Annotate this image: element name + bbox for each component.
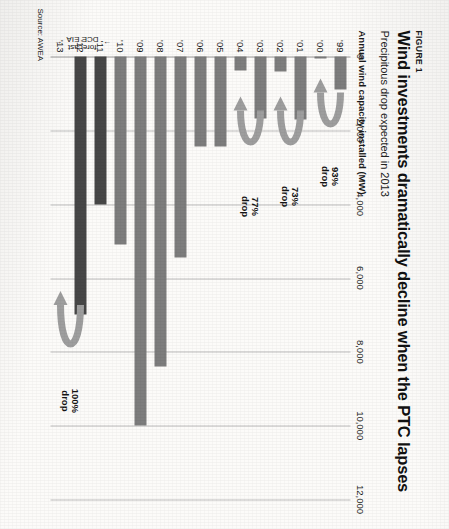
forecast-label-line1: DCE EIA <box>66 33 98 42</box>
figure-kicker: FIGURE 1 <box>413 30 423 507</box>
drop-percent: 100% <box>70 388 80 412</box>
category-tick-label: '07 <box>175 32 186 52</box>
category-tick-label: '99 <box>335 32 346 52</box>
category-tick-label: '01 <box>295 32 306 52</box>
category-tick-label: '03 <box>255 32 266 52</box>
forecast-label-line2: forecast <box>66 42 98 51</box>
category-tick-label: '08 <box>155 32 166 52</box>
value-tick-label: 12,000 <box>354 484 365 513</box>
forecast-label-wrap: DCE EIAforecast <box>66 33 98 51</box>
figure-title: Wind investments dramatically decline wh… <box>393 30 411 507</box>
category-tick-label: '00 <box>315 32 326 52</box>
category-tick-label: '05 <box>215 32 226 52</box>
drop-word: drop <box>60 388 70 412</box>
value-tick-label: 4,000 <box>354 192 365 216</box>
drop-arrow-100 <box>50 56 350 499</box>
category-tick-label: '04 <box>235 32 246 52</box>
drop-annotation-100: 100%drop <box>60 388 80 412</box>
source-note: Source: AWEA <box>35 8 44 61</box>
figure-subtitle: Precipitous drop expected in 2013 <box>378 30 390 507</box>
category-tick-label: '10 <box>115 32 126 52</box>
value-tick-label: 6,000 <box>354 266 365 290</box>
category-tick-label: '09 <box>135 32 146 52</box>
annotations-layer: 93%drop73%drop77%drop100%drop <box>50 56 350 499</box>
category-tick-label: '06 <box>195 32 206 52</box>
forecast-arrow-left: ← <box>103 38 111 47</box>
forecast-arrow-right: → <box>53 38 61 47</box>
value-tick-label: 8,000 <box>354 339 365 363</box>
rotated-page-content: FIGURE 1 Wind investments dramatically d… <box>0 0 449 529</box>
bar-chart-plot: 02,0004,0006,0008,00010,00012,000 '99'00… <box>50 56 350 499</box>
category-tick-label: '02 <box>275 32 286 52</box>
figure-container: FIGURE 1 Wind investments dramatically d… <box>0 0 449 529</box>
page-background: FIGURE 1 Wind investments dramatically d… <box>0 0 449 529</box>
value-tick-label: 2,000 <box>354 118 365 142</box>
value-tick-label: 10,000 <box>354 411 365 440</box>
forecast-bracket: ← DCE EIAforecast→ <box>53 30 111 54</box>
value-tick-label: 0 <box>354 53 365 58</box>
